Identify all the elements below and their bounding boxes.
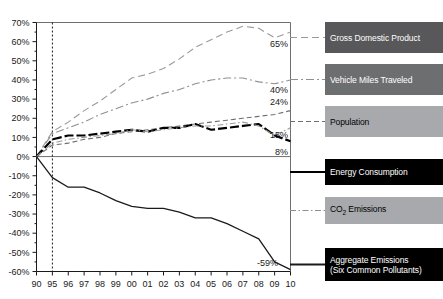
- legend-label: CO2 Emissions: [330, 204, 386, 218]
- legend-label: Gross Domestic Product: [330, 33, 420, 43]
- x-tick-label: 00: [127, 279, 137, 289]
- legend-swatch: Population: [325, 106, 443, 137]
- y-tick-label: -40%: [8, 228, 29, 238]
- legend-item-6: Aggregate Emissions(Six Common Pollutant…: [325, 248, 443, 281]
- x-tick-label: 02: [158, 279, 168, 289]
- legend-swatch: CO2 Emissions: [325, 197, 443, 224]
- y-tick-label: 10%: [11, 133, 29, 143]
- legend-swatch: Vehicle Miles Traveled: [325, 64, 443, 95]
- axes-layer: 70%60%50%40%30%20%10%0%-10%-20%-30%-40%-…: [8, 18, 295, 289]
- legend-swatch: Aggregate Emissions(Six Common Pollutant…: [325, 248, 443, 281]
- chart-page: 70%60%50%40%30%20%10%0%-10%-20%-30%-40%-…: [0, 0, 443, 299]
- y-tick-label: 40%: [11, 75, 29, 85]
- x-tick-label: 03: [174, 279, 184, 289]
- data-point-labels: 65%40%24%8%15%-59%: [257, 39, 288, 268]
- y-tick-label: -30%: [8, 209, 29, 219]
- point-label-gdp: 65%: [270, 39, 288, 49]
- point-label-population: 24%: [270, 97, 288, 107]
- point-label-aggregate: -59%: [257, 258, 278, 268]
- legend-item-3: Population: [325, 106, 443, 137]
- chart-legend: Gross Domestic ProductVehicle Miles Trav…: [325, 0, 443, 299]
- y-tick-label: 0%: [16, 152, 29, 162]
- legend-item-4: Energy Consumption: [325, 159, 443, 185]
- x-tick-label: 01: [143, 279, 153, 289]
- legend-label: Aggregate Emissions(Six Common Pollutant…: [330, 255, 422, 275]
- legend-connectors: [290, 38, 325, 265]
- x-tick-label: 90: [31, 279, 41, 289]
- point-label-energy: 8%: [275, 147, 288, 157]
- x-tick-label: 95: [47, 279, 57, 289]
- x-tick-label: 05: [206, 279, 216, 289]
- y-tick-label: -60%: [8, 267, 29, 277]
- y-tick-label: 70%: [11, 18, 29, 28]
- y-tick-label: 60%: [11, 37, 29, 47]
- y-tick-label: -10%: [8, 171, 29, 181]
- series-line-gdp: [37, 26, 291, 156]
- x-tick-label: 97: [79, 279, 89, 289]
- legend-swatch: Gross Domestic Product: [325, 22, 443, 53]
- point-label-vmt: 40%: [270, 85, 288, 95]
- x-tick-label: 10: [285, 279, 295, 289]
- legend-label: Population: [330, 117, 369, 127]
- legend-item-5: CO2 Emissions: [325, 197, 443, 224]
- x-tick-label: 96: [63, 279, 73, 289]
- point-label-co2: 15%: [270, 130, 288, 140]
- x-tick-label: 99: [111, 279, 121, 289]
- series-layer: [37, 26, 291, 269]
- legend-item-2: Vehicle Miles Traveled: [325, 64, 443, 95]
- legend-swatch: Energy Consumption: [325, 159, 443, 185]
- x-tick-label: 08: [254, 279, 264, 289]
- y-tick-label: -50%: [8, 248, 29, 258]
- x-tick-label: 09: [270, 279, 280, 289]
- legend-label: Energy Consumption: [330, 167, 408, 177]
- y-tick-label: -20%: [8, 190, 29, 200]
- series-line-energy: [37, 124, 291, 157]
- y-tick-label: 50%: [11, 56, 29, 66]
- y-tick-label: 20%: [11, 113, 29, 123]
- y-tick-label: 30%: [11, 94, 29, 104]
- x-tick-label: 98: [95, 279, 105, 289]
- legend-item-1: Gross Domestic Product: [325, 22, 443, 53]
- x-tick-label: 07: [238, 279, 248, 289]
- x-tick-label: 06: [222, 279, 232, 289]
- x-tick-label: 04: [190, 279, 200, 289]
- legend-label: Vehicle Miles Traveled: [330, 75, 412, 85]
- series-line-aggregate: [37, 157, 291, 270]
